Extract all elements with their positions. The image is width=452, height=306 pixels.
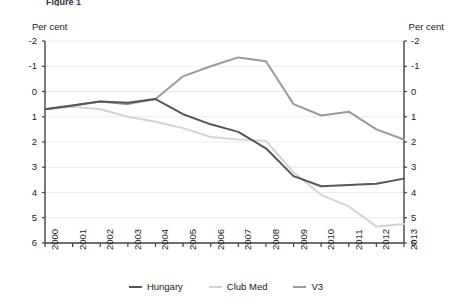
- y-tick-label-right: 0: [411, 86, 425, 97]
- chart-legend: HungaryClub MedV3: [0, 281, 452, 292]
- chart-figure: Figure 1 Per cent Per cent 6543210-1-2 6…: [0, 0, 452, 306]
- y-tick-label-right: 4: [411, 187, 425, 198]
- x-tick-label-2002: 2002: [104, 229, 115, 250]
- series-line-club-med: [45, 107, 404, 227]
- legend-item-v3[interactable]: V3: [293, 281, 323, 292]
- legend-label: Club Med: [227, 281, 268, 292]
- y-tick-label-right: -1: [411, 60, 425, 71]
- x-tick-label-2004: 2004: [159, 229, 170, 250]
- legend-swatch-icon: [293, 286, 306, 288]
- y-tick-label-left: 1: [23, 111, 37, 122]
- y-tick-label-right: 2: [411, 136, 425, 147]
- legend-item-club-med[interactable]: Club Med: [209, 281, 268, 292]
- x-tick-label-2000: 2000: [49, 229, 60, 250]
- x-tick-label-2010: 2010: [325, 229, 336, 250]
- x-tick-label-2001: 2001: [77, 229, 88, 250]
- x-tick-label-2012: 2012: [380, 229, 391, 250]
- x-tick-label-2007: 2007: [242, 229, 253, 250]
- x-tick-label-2009: 2009: [298, 229, 309, 250]
- y-tick-label-left: -1: [23, 60, 37, 71]
- y-tick-label-left: 5: [23, 212, 37, 223]
- y-tick-label-right: 5: [411, 212, 425, 223]
- y-tick-label-left: -2: [23, 35, 37, 46]
- legend-label: Hungary: [147, 281, 183, 292]
- x-tick-label-2011: 2011: [353, 230, 364, 250]
- x-tick-label-2005: 2005: [187, 229, 198, 250]
- y-tick-label-left: 2: [23, 136, 37, 147]
- legend-label: V3: [311, 281, 323, 292]
- x-tick-label-2013: 2013: [408, 229, 419, 250]
- y-tick-label-left: 3: [23, 161, 37, 172]
- legend-swatch-icon: [129, 286, 142, 288]
- y-tick-label-right: 3: [411, 161, 425, 172]
- y-tick-label-left: 4: [23, 187, 37, 198]
- x-tick-label-2006: 2006: [215, 229, 226, 250]
- plot-area: [0, 0, 452, 306]
- x-tick-label-2003: 2003: [132, 229, 143, 250]
- x-tick-label-2008: 2008: [270, 229, 281, 250]
- legend-item-hungary[interactable]: Hungary: [129, 281, 183, 292]
- y-tick-label-right: -2: [411, 35, 425, 46]
- y-tick-label-left: 0: [23, 86, 37, 97]
- y-tick-label-left: 6: [23, 237, 37, 248]
- y-tick-label-right: 1: [411, 111, 425, 122]
- legend-swatch-icon: [209, 286, 222, 288]
